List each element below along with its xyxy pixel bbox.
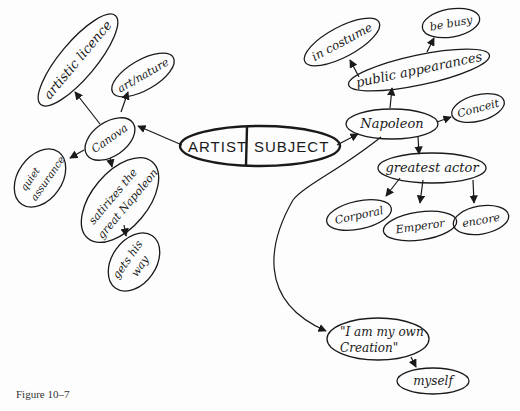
node-creation: "I am my own Creation" xyxy=(327,318,429,360)
node-myself: myself xyxy=(397,368,469,394)
figure-caption: Figure 10–7 xyxy=(16,388,69,400)
node-art-nature: art/nature xyxy=(105,45,181,106)
node-conceit: Conceit xyxy=(449,88,508,127)
node-in-costume: in costume xyxy=(298,9,386,75)
edge-napoleon-public-appearances xyxy=(390,88,392,108)
concept-map: ARTIST SUBJECT Canova artistic licence a… xyxy=(0,0,520,411)
edge-canova-artistic-licence xyxy=(75,92,100,124)
svg-text:art/nature: art/nature xyxy=(115,55,171,95)
node-napoleon: Napoleon xyxy=(346,109,438,139)
edge-actor-emperor xyxy=(420,180,423,203)
edge-actor-encore xyxy=(473,180,474,203)
subject-label: SUBJECT xyxy=(254,138,329,155)
edge-actor-corporal xyxy=(386,178,400,196)
svg-text:quiet assurance: quiet assurance xyxy=(17,146,67,202)
edge-napoleon-greatest-actor xyxy=(418,136,419,154)
svg-text:gets his way: gets his way xyxy=(110,235,159,289)
svg-text:Napoleon: Napoleon xyxy=(359,116,423,131)
svg-text:myself: myself xyxy=(413,374,455,388)
svg-text:Canova: Canova xyxy=(89,121,130,155)
node-artistic-licence: artistic licence xyxy=(27,4,129,116)
node-encore: encore xyxy=(451,201,511,238)
edge-creation-myself xyxy=(411,357,416,367)
artist-label: ARTIST xyxy=(188,138,247,155)
edge-canova-quiet-assurance xyxy=(70,150,84,158)
svg-text:Emperor: Emperor xyxy=(394,217,446,237)
node-be-busy: be busy xyxy=(420,4,482,42)
svg-text:"I am my own Creation": "I am my own Creation" xyxy=(340,325,427,355)
center-node: ARTIST SUBJECT xyxy=(180,126,340,166)
node-emperor: Emperor xyxy=(381,207,458,245)
svg-text:encore: encore xyxy=(461,211,501,231)
svg-text:satirizes the great Napo: satirizes the great Napoleon xyxy=(83,156,161,241)
svg-text:be busy: be busy xyxy=(429,13,474,33)
edge-public-be-busy xyxy=(427,38,434,52)
node-public-appearances: public appearances xyxy=(345,40,492,99)
edge-napoleon-creation xyxy=(274,137,381,331)
svg-text:in costume: in costume xyxy=(309,20,374,64)
svg-text:artistic licence: artistic licence xyxy=(41,17,115,102)
edge-napoleon-conceit xyxy=(437,117,451,122)
node-greatest-actor: greatest actor xyxy=(378,153,486,183)
svg-text:greatest actor: greatest actor xyxy=(385,160,479,175)
node-satirizes: satirizes the great Napoleon xyxy=(66,144,173,257)
concept-map-figure: ARTIST SUBJECT Canova artistic licence a… xyxy=(0,0,520,411)
edge-canova-satirizes xyxy=(110,158,112,167)
edge-center-canova xyxy=(138,126,182,145)
node-quiet-assurance: quiet assurance xyxy=(4,139,77,217)
